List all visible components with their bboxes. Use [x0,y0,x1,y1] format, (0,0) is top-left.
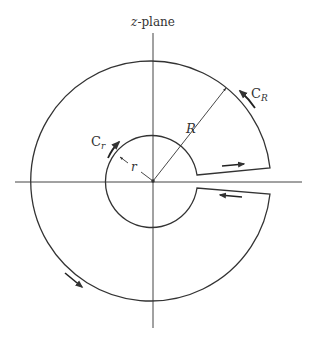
outer-radius-label: R [185,121,196,136]
inner-radius-line-b [120,157,128,163]
lower-slit-arrow-icon [220,195,242,197]
lower-left-arrow-icon [65,273,82,287]
keyhole-contour [31,61,270,301]
keyhole-contour-diagram: z-plane CR Cr R r [0,0,316,341]
origin-dot [151,179,155,183]
inner-contour-label: Cr [91,134,106,151]
outer-contour-label: CR [251,86,268,103]
plane-title: z-plane [130,15,175,29]
upper-slit-arrow-icon [222,164,244,166]
inner-radius-line-a [141,172,153,181]
inner-radius-label: r [131,160,138,174]
diagram-svg: z-plane CR Cr R r [0,0,316,341]
